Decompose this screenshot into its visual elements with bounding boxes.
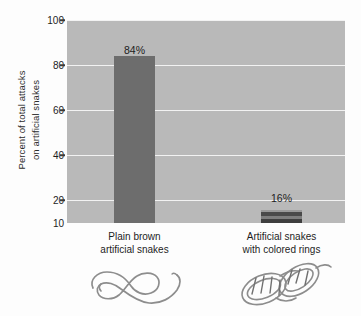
plain-brown-snake-illustration xyxy=(87,260,191,310)
category-label-colored-rings: Artificial snakes with colored rings xyxy=(243,231,321,256)
data-label-bar-1: 84% xyxy=(124,44,145,56)
gridline-40 xyxy=(67,155,345,156)
bar-artificial-snakes-with-colored-rings xyxy=(261,210,302,224)
gridline-80 xyxy=(67,65,345,66)
category-label-line: Plain brown xyxy=(100,231,168,244)
gridline-60 xyxy=(67,110,345,111)
category-label-line: artificial snakes xyxy=(100,244,168,257)
bar-plain-brown-artificial-snakes xyxy=(114,56,155,223)
gridline-20 xyxy=(67,200,345,201)
plot-area xyxy=(67,20,345,223)
gridline-100 xyxy=(67,20,345,21)
y-tick-mark xyxy=(60,64,65,66)
data-label-bar-2: 16% xyxy=(271,192,292,204)
ringed-snake-illustration xyxy=(232,258,338,312)
y-tick-label: 10 xyxy=(38,218,64,229)
category-label-plain-brown: Plain brown artificial snakes xyxy=(100,231,168,256)
y-axis-tick-labels: 100 80 60 40 20 10 xyxy=(36,0,64,316)
y-tick-mark xyxy=(60,109,65,111)
y-tick-mark xyxy=(60,155,65,157)
category-label-line: Artificial snakes xyxy=(243,231,321,244)
y-tick-mark xyxy=(60,19,65,21)
chart-figure: Percent of total attacks on artificial s… xyxy=(0,0,361,316)
bar-band-dark-2 xyxy=(261,219,302,224)
category-label-line: with colored rings xyxy=(243,244,321,257)
y-tick-mark xyxy=(60,200,65,202)
